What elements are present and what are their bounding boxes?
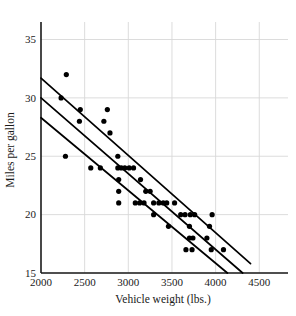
- data-point-18: [116, 200, 121, 205]
- data-point-28: [164, 200, 169, 205]
- data-point-35: [192, 212, 197, 217]
- data-point-36: [210, 212, 215, 217]
- data-point-7: [105, 107, 110, 112]
- data-point-3: [78, 107, 83, 112]
- x-tick-label-2000: 2000: [30, 276, 53, 288]
- y-tick-label-30: 30: [25, 92, 37, 104]
- data-point-15: [131, 165, 136, 170]
- data-points: [58, 72, 226, 252]
- data-point-1: [64, 72, 69, 77]
- data-point-45: [221, 247, 226, 252]
- data-point-6: [98, 165, 103, 170]
- data-point-31: [172, 200, 177, 205]
- data-point-25: [151, 200, 156, 205]
- data-point-24: [148, 189, 153, 194]
- y-axis-title: Miles per gallon: [4, 112, 17, 188]
- data-point-0: [58, 95, 63, 100]
- data-point-42: [183, 247, 188, 252]
- lower-band: [41, 118, 227, 273]
- data-point-29: [151, 212, 156, 217]
- x-tick-label-4500: 4500: [248, 276, 271, 288]
- data-point-2: [63, 154, 68, 159]
- y-tick-label-25: 25: [25, 150, 37, 162]
- regression-line: [41, 98, 243, 273]
- data-point-22: [138, 177, 143, 182]
- x-tick-labels: 200025003000350040004500: [30, 276, 271, 288]
- data-point-37: [187, 224, 192, 229]
- horizontal-gridlines: [41, 40, 288, 273]
- vertical-gridlines: [85, 22, 260, 273]
- chart-canvas: 1520253035 200025003000350040004500 Vehi…: [0, 0, 296, 316]
- data-point-8: [101, 119, 106, 124]
- data-point-17: [116, 189, 121, 194]
- data-point-43: [189, 247, 194, 252]
- x-tick-label-2500: 2500: [74, 276, 97, 288]
- upper-band: [41, 78, 251, 264]
- x-axis-title: Vehicle weight (lbs.): [115, 293, 211, 306]
- data-point-21: [141, 200, 146, 205]
- x-tick-label-3500: 3500: [161, 276, 184, 288]
- scatter-chart: 1520253035 200025003000350040004500 Vehi…: [0, 0, 296, 316]
- data-point-5: [88, 165, 93, 170]
- y-tick-label-20: 20: [25, 208, 37, 220]
- y-tick-label-35: 35: [25, 33, 37, 45]
- data-point-41: [204, 235, 209, 240]
- x-tick-label-3000: 3000: [117, 276, 140, 288]
- data-point-30: [166, 224, 171, 229]
- data-point-9: [107, 130, 112, 135]
- data-point-16: [116, 177, 121, 182]
- data-point-40: [190, 235, 195, 240]
- data-point-38: [207, 224, 212, 229]
- fit-lines: [41, 78, 251, 273]
- data-point-4: [77, 119, 82, 124]
- data-point-44: [209, 247, 214, 252]
- data-point-33: [182, 212, 187, 217]
- x-tick-label-4000: 4000: [205, 276, 228, 288]
- y-tick-labels: 1520253035: [25, 33, 37, 278]
- data-point-10: [115, 154, 120, 159]
